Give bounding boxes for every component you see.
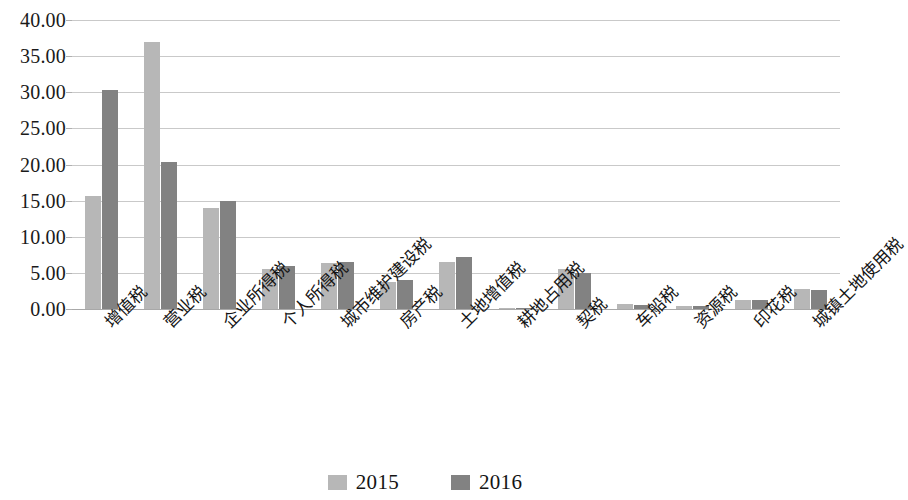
y-axis-tick-label: 35.00 (20, 45, 66, 68)
legend-item[interactable]: 2015 (328, 470, 399, 495)
bars-layer (72, 20, 840, 309)
bar (220, 201, 236, 309)
bar-group (72, 20, 131, 309)
y-axis-tick-label: 0.00 (30, 298, 66, 321)
bar (439, 262, 455, 309)
bar-group (722, 20, 781, 309)
plot-area (72, 20, 840, 309)
bar (102, 90, 118, 309)
y-axis-tick-label: 5.00 (30, 261, 66, 284)
y-axis-tick-labels: 0.005.0010.0015.0020.0025.0030.0035.0040… (0, 20, 66, 309)
bar (144, 42, 160, 309)
y-axis-tick-label: 25.00 (20, 117, 66, 140)
x-axis-category-labels: 增值税营业税企业所得税个人所得税城市维护建设税房产税土地增值税耕地占用税契税车船… (72, 309, 840, 439)
legend-label: 2016 (479, 470, 522, 495)
bar-group (426, 20, 485, 309)
legend-label: 2015 (356, 470, 399, 495)
chart-legend: 20152016 (0, 470, 850, 495)
bar-group (781, 20, 840, 309)
bar-group (604, 20, 663, 309)
legend-color-swatch (451, 475, 470, 490)
bar-group (190, 20, 249, 309)
y-axis-tick-label: 10.00 (20, 225, 66, 248)
bar-group (131, 20, 190, 309)
y-axis-tick-label: 40.00 (20, 9, 66, 32)
legend-item[interactable]: 2016 (451, 470, 522, 495)
bar (161, 162, 177, 309)
y-axis-tick-label: 20.00 (20, 153, 66, 176)
y-axis-tick-label: 15.00 (20, 189, 66, 212)
y-axis-tick-label: 30.00 (20, 81, 66, 104)
bar-group (663, 20, 722, 309)
legend-color-swatch (328, 475, 347, 490)
bar (85, 196, 101, 309)
